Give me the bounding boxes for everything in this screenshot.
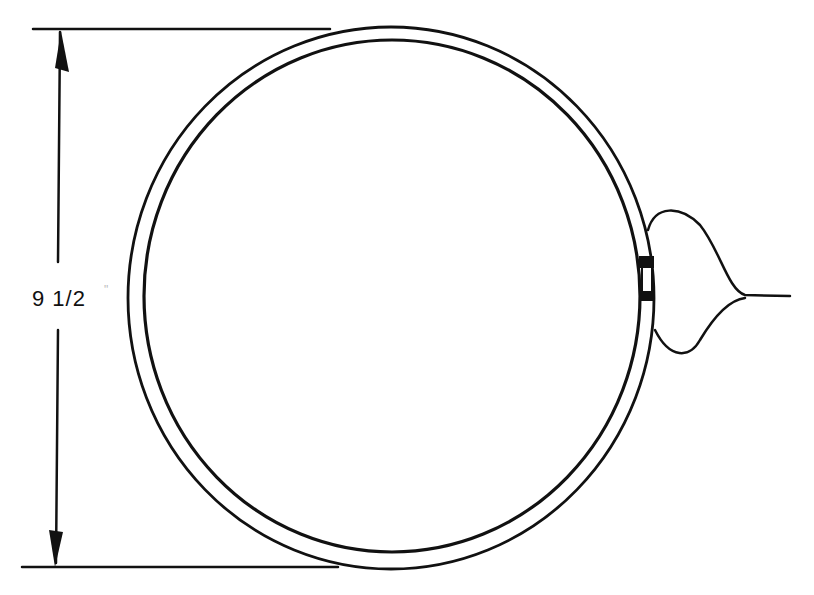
screw-clamp (639, 256, 654, 301)
diagram-canvas (0, 0, 814, 595)
hoop-diagram: 9 1/2 " (0, 0, 814, 595)
dimension-label: 9 1/2 (28, 284, 90, 314)
arrowhead-top (55, 31, 69, 72)
fabric-gather-tail (648, 211, 790, 354)
dimension-line-lower (56, 330, 58, 563)
inner-hoop-ring (144, 40, 640, 552)
inch-mark: " (104, 283, 108, 297)
arrowhead-bottom (49, 530, 63, 567)
outer-hoop-ring (128, 27, 654, 569)
